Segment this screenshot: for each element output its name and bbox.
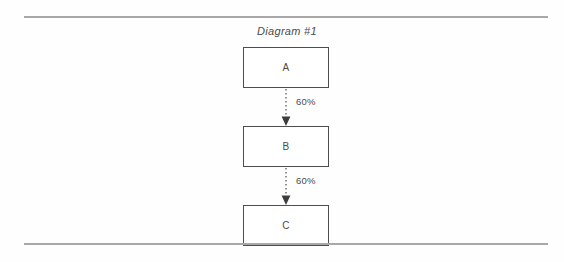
connector-b-to-c: 60% [243,168,331,206]
node-box-a[interactable]: A [243,47,329,88]
top-divider-rule [24,16,548,18]
arrow-b-to-c-icon [243,168,331,206]
node-box-c[interactable]: C [243,205,329,246]
diagram-title: Diagram #1 [0,25,564,37]
node-label-b: B [283,141,290,152]
edge-label-b-to-c: 60% [296,175,316,186]
bottom-divider-rule [24,243,548,245]
node-label-c: C [282,220,290,231]
node-box-b[interactable]: B [243,126,329,167]
edge-label-a-to-b: 60% [296,96,316,107]
diagram-page: Diagram #1 A 60% B 60% C [0,0,564,262]
connector-a-to-b: 60% [243,89,331,127]
diagram-title-text: Diagram #1 [257,25,317,37]
arrow-a-to-b-icon [243,89,331,127]
node-label-a: A [283,62,290,73]
